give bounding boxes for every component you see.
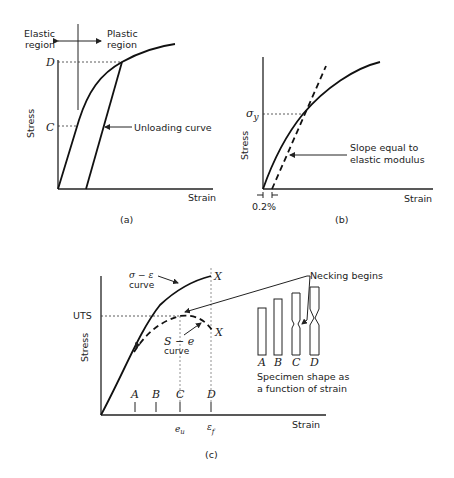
c-true-curve-label-2: curve xyxy=(129,280,155,290)
a-x-label: Strain xyxy=(188,192,216,203)
specimen-caption-2: a function of strain xyxy=(257,383,347,394)
c-tick-label-C: C xyxy=(176,388,185,401)
a-unloading-line xyxy=(86,62,122,189)
c-tick-label-D: D xyxy=(206,388,216,401)
b-x-label: Strain xyxy=(404,193,432,204)
c-necking-line-uts xyxy=(185,276,307,312)
a-caption: (a) xyxy=(120,214,133,225)
panel-c: A B C D eu εf X X UTS σ − ε curve S − e … xyxy=(73,268,383,460)
a-elastic-label: Elastic xyxy=(24,28,55,39)
c-eu-label: eu xyxy=(175,424,185,436)
c-true-fracture-mark: X xyxy=(213,270,223,283)
specimen-label-D: D xyxy=(309,356,319,369)
c-true-curve-arrow xyxy=(158,276,178,283)
c-y-label: Stress xyxy=(79,333,90,362)
a-unloading-label: Unloading curve xyxy=(134,122,212,133)
specimen-label-A: A xyxy=(257,356,266,369)
b-slope-label-2: elastic modulus xyxy=(350,154,425,165)
c-necking-label: Necking begins xyxy=(310,270,383,281)
c-eng-fracture-mark: X xyxy=(214,326,224,339)
b-offset-line xyxy=(272,66,326,189)
b-caption: (b) xyxy=(335,214,348,225)
c-uts-label: UTS xyxy=(73,310,92,321)
c-necking-line-specimen xyxy=(302,276,310,324)
c-true-curve-label: σ − ε xyxy=(129,270,153,280)
panel-a: Elastic region Plastic region D C Unload… xyxy=(24,24,216,225)
b-y-label: Stress xyxy=(239,131,250,160)
a-y-label: Stress xyxy=(25,109,36,138)
specimen-caption: Specimen shape as xyxy=(257,371,349,382)
a-plastic-label: Plastic xyxy=(107,28,138,39)
b-offset-label: 0.2% xyxy=(252,201,276,212)
c-tick-label-B: B xyxy=(151,388,160,401)
b-slope-label: Slope equal to xyxy=(350,142,418,153)
panel-b: σy Slope equal to elastic modulus 0.2% S… xyxy=(239,57,433,225)
c-eng-curve-label-2: curve xyxy=(164,346,190,356)
specimen-label-C: C xyxy=(292,356,301,369)
specimen-label-B: B xyxy=(273,356,282,369)
c-tick-label-A: A xyxy=(130,388,139,401)
c-x-label: Strain xyxy=(292,419,320,430)
stress-strain-figure: Elastic region Plastic region D C Unload… xyxy=(0,0,454,478)
specimen-D xyxy=(310,287,319,355)
b-sigma-y-label: σy xyxy=(246,107,260,122)
a-stress-strain-curve xyxy=(58,44,175,189)
specimen-C xyxy=(292,293,300,355)
a-plastic-label-2: region xyxy=(107,39,137,50)
a-point-D: D xyxy=(45,56,55,69)
c-eng-curve-arrow xyxy=(184,323,201,335)
specimen-A xyxy=(258,308,266,355)
c-caption: (c) xyxy=(205,449,218,460)
c-ef-label: εf xyxy=(207,422,216,436)
specimen-B xyxy=(274,299,282,355)
a-elastic-label-2: region xyxy=(25,39,55,50)
a-point-C: C xyxy=(46,121,55,134)
